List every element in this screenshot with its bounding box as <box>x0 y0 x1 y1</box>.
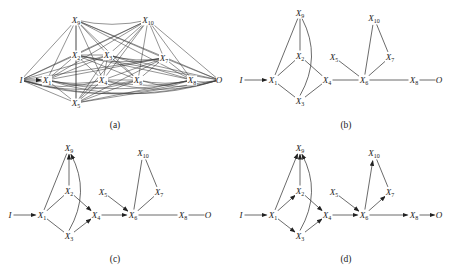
node-o: O <box>436 210 443 220</box>
graph-b: IX1X2X3X4X5X6X7X8X9X10O (b) <box>231 0 462 135</box>
edge-i-x9 <box>21 20 76 80</box>
edge-x2-x10 <box>76 20 148 55</box>
nodes-d: IX1X2X3X4X5X6X7X8X9X10O <box>238 143 443 242</box>
nodes-b: IX1X2X3X4X5X6X7X8X9X10O <box>238 8 443 107</box>
edge-x6-x10 <box>134 160 142 210</box>
edge-x2-x4 <box>304 60 323 77</box>
edges-b <box>245 18 436 98</box>
panel-c: IX1X2X3X4X5X6X7X8X9X10O (c) <box>0 135 231 270</box>
edge-x7-x10 <box>146 159 157 186</box>
edge-x6-x10 <box>365 25 373 75</box>
node-o: O <box>436 75 443 85</box>
edge-x6-x7 <box>137 196 155 212</box>
edge-x1-x9 <box>44 153 67 210</box>
edge-x2-x4 <box>73 195 91 211</box>
panel-d: IX1X2X3X4X5X6X7X8X9X10O (d) <box>231 135 462 270</box>
edge-i-x3 <box>21 55 108 80</box>
edge-x1-x9 <box>275 154 298 210</box>
edges-c <box>14 153 205 233</box>
panel-a: IX1X2X3X4X5X6X7X8X9X10O (a) <box>0 0 231 135</box>
edge-x9-x10 <box>76 20 148 24</box>
edge-x10-o <box>148 20 219 80</box>
edge-x4-x10 <box>103 20 148 80</box>
caption-c: (c) <box>110 254 121 265</box>
edge-x7-x10 <box>377 24 388 51</box>
edge-x5-x6 <box>338 195 358 211</box>
edge-x5-x6 <box>338 60 359 76</box>
edge-x8-x10 <box>148 20 192 80</box>
edge-x6-x10 <box>138 20 148 80</box>
edge-x3-x4 <box>73 219 91 233</box>
edge-x6-x10 <box>365 161 373 210</box>
graph-a: IX1X2X3X4X5X6X7X8X9X10O (a) <box>0 0 231 135</box>
edge-x5-x6 <box>107 195 127 211</box>
edges-d <box>245 154 435 233</box>
edge-x1-x3 <box>277 218 295 232</box>
panel-b: IX1X2X3X4X5X6X7X8X9X10O (b) <box>231 0 462 135</box>
caption-a: (a) <box>110 120 121 131</box>
edge-x6-x7 <box>368 196 385 211</box>
node-o: O <box>205 210 212 220</box>
edge-x1-x9 <box>275 18 298 75</box>
edge-x3-x8 <box>108 55 192 80</box>
edges-a <box>21 20 219 103</box>
caption-b: (b) <box>340 120 351 131</box>
node-o: O <box>216 75 223 85</box>
edge-x3-x4 <box>304 219 322 233</box>
edge-x6-x7 <box>368 61 386 77</box>
graph-d: IX1X2X3X4X5X6X7X8X9X10O (d) <box>231 135 462 270</box>
edge-x2-x4 <box>304 195 322 211</box>
nodes-c: IX1X2X3X4X5X6X7X8X9X10O <box>7 143 212 242</box>
edge-x1-x3 <box>46 218 64 232</box>
caption-d: (d) <box>340 254 351 265</box>
edge-x3-x4 <box>304 83 322 97</box>
graph-c: IX1X2X3X4X5X6X7X8X9X10O (c) <box>0 135 231 270</box>
edge-x1-x3 <box>277 83 295 97</box>
edge-x7-x10 <box>377 159 388 186</box>
